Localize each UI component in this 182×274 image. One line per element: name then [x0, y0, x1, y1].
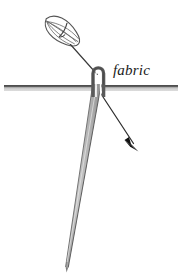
fabric-label: fabric	[113, 62, 150, 79]
fabric-plane	[4, 85, 178, 90]
needle-fabric-diagram: fabric	[0, 0, 182, 274]
thread-knot-icon	[40, 10, 85, 52]
direction-arrow-head	[125, 137, 139, 152]
diagram-canvas	[0, 0, 182, 274]
needle-shaft	[66, 84, 102, 273]
